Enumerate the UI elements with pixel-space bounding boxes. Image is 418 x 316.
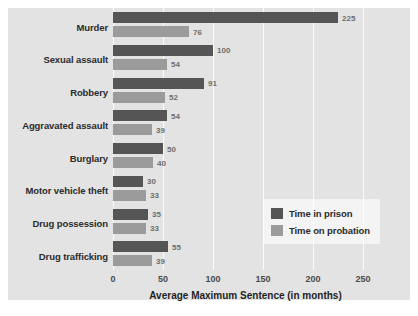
legend-swatch-icon — [271, 225, 283, 236]
x-axis-title: Average Maximum Sentence (in months) — [113, 290, 378, 301]
bar[interactable] — [113, 26, 189, 37]
x-tick-label: 150 — [255, 274, 270, 284]
category-label: Burglary — [4, 143, 108, 173]
bar[interactable] — [113, 157, 153, 168]
bar[interactable] — [113, 12, 338, 23]
bar-value-label: 76 — [189, 27, 202, 36]
bar-group: Robbery9152 — [113, 78, 378, 108]
bar-value-label: 30 — [143, 177, 156, 186]
bar[interactable] — [113, 176, 143, 187]
bar-group: Sexual assault10054 — [113, 45, 378, 75]
bar-row: 100 — [113, 45, 378, 56]
bar-value-label: 33 — [146, 191, 159, 200]
bar-value-label: 33 — [146, 224, 159, 233]
legend-swatch-icon — [271, 208, 283, 219]
legend-label: Time on probation — [289, 225, 370, 236]
category-label: Murder — [4, 12, 108, 42]
bar[interactable] — [113, 59, 167, 70]
category-label: Motor vehicle theft — [4, 176, 108, 206]
bar-group: Drug trafficking5539 — [113, 241, 378, 271]
bar-row: 50 — [113, 143, 378, 154]
bar[interactable] — [113, 92, 165, 103]
category-label: Drug trafficking — [4, 241, 108, 271]
category-label: Drug possession — [4, 209, 108, 239]
bar-value-label: 39 — [152, 256, 165, 265]
bar[interactable] — [113, 110, 167, 121]
chart-legend: Time in prisonTime on probation — [263, 199, 380, 244]
legend-item[interactable]: Time on probation — [271, 223, 370, 237]
bar-value-label: 39 — [152, 125, 165, 134]
bar-value-label: 55 — [168, 242, 181, 251]
bar[interactable] — [113, 223, 146, 234]
bar-row: 39 — [113, 124, 378, 135]
bar[interactable] — [113, 241, 168, 252]
category-label: Sexual assault — [4, 45, 108, 75]
bar-value-label: 35 — [148, 210, 161, 219]
bar-row: 91 — [113, 78, 378, 89]
bar-value-label: 54 — [167, 111, 180, 120]
bar-row: 30 — [113, 176, 378, 187]
bar[interactable] — [113, 45, 213, 56]
bar-row: 54 — [113, 59, 378, 70]
x-tick-label: 50 — [158, 274, 168, 284]
bar-group: Burglary5040 — [113, 143, 378, 173]
bar-value-label: 225 — [338, 13, 355, 22]
category-label: Aggravated assault — [4, 110, 108, 140]
bar-group: Murder22576 — [113, 12, 378, 42]
bar-row: 225 — [113, 12, 378, 23]
bar-value-label: 91 — [204, 79, 217, 88]
x-tick-label: 200 — [305, 274, 320, 284]
bar-row: 76 — [113, 26, 378, 37]
bar-value-label: 100 — [213, 46, 230, 55]
x-tick-label: 100 — [205, 274, 220, 284]
legend-label: Time in prison — [289, 208, 352, 219]
bar-row: 39 — [113, 255, 378, 266]
bar-value-label: 54 — [167, 60, 180, 69]
bar-row: 54 — [113, 110, 378, 121]
bar[interactable] — [113, 190, 146, 201]
legend-item[interactable]: Time in prison — [271, 206, 370, 220]
bar-row: 40 — [113, 157, 378, 168]
bar[interactable] — [113, 78, 204, 89]
bar-value-label: 52 — [165, 93, 178, 102]
bar-group: Aggravated assault5439 — [113, 110, 378, 140]
bar[interactable] — [113, 209, 148, 220]
bar[interactable] — [113, 143, 163, 154]
x-tick-label: 250 — [355, 274, 370, 284]
bar[interactable] — [113, 255, 152, 266]
bar-row: 52 — [113, 92, 378, 103]
category-label: Robbery — [4, 78, 108, 108]
bar-chart-figure: Murder22576Sexual assault10054Robbery915… — [0, 0, 418, 316]
bar-value-label: 50 — [163, 144, 176, 153]
x-tick-label: 0 — [110, 274, 115, 284]
bar-value-label: 40 — [153, 158, 166, 167]
bar[interactable] — [113, 124, 152, 135]
